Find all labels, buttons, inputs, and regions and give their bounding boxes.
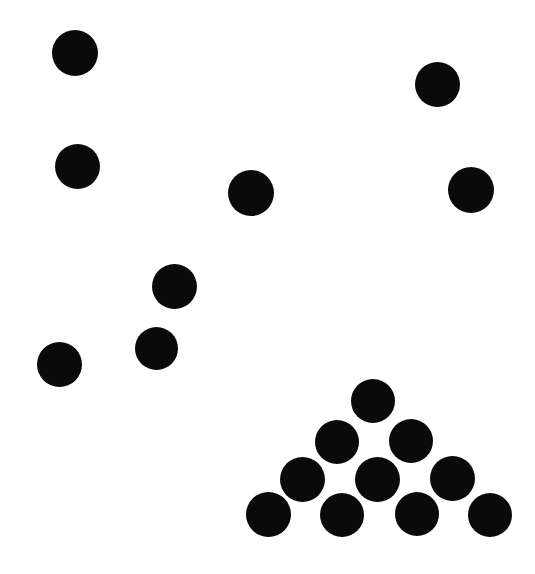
cluster-r2-c2 bbox=[389, 419, 433, 463]
cluster-r4-c2 bbox=[320, 493, 364, 537]
cluster-r3-c3 bbox=[430, 456, 475, 501]
cluster-r4-c3 bbox=[395, 492, 439, 536]
cluster-r4-c4 bbox=[468, 493, 512, 537]
triangle-cluster-dot-group bbox=[0, 0, 535, 574]
cluster-r3-c1 bbox=[280, 457, 325, 502]
cluster-r4-c1 bbox=[246, 492, 291, 537]
dot-pattern-canvas bbox=[0, 0, 535, 574]
cluster-r2-c1 bbox=[315, 420, 359, 464]
cluster-r1-c1 bbox=[351, 379, 395, 423]
cluster-r3-c2 bbox=[355, 457, 400, 502]
